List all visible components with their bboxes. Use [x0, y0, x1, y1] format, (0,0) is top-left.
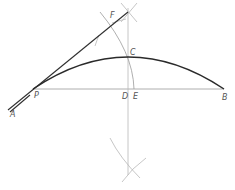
- geometry-diagram: A P D E B C F: [0, 0, 235, 190]
- tangent-line: [8, 12, 128, 110]
- main-arc-pcb: [33, 57, 224, 89]
- label-b: B: [222, 93, 228, 102]
- label-c: C: [130, 48, 136, 57]
- label-a: A: [9, 110, 15, 119]
- arc-ef: [100, 12, 134, 89]
- label-d: D: [122, 92, 128, 101]
- label-p: P: [34, 91, 39, 100]
- label-e: E: [133, 92, 139, 101]
- bottom-construction-arc-1: [110, 138, 140, 178]
- label-f: F: [110, 11, 115, 20]
